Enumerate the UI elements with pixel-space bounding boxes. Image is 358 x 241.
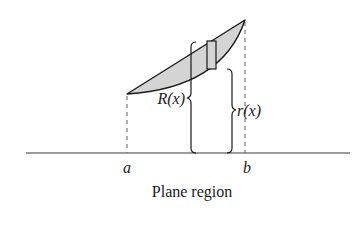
shaded-region [127, 20, 245, 94]
caption: Plane region [152, 183, 232, 201]
plane-region-diagram: R(x) r(x) a b Plane region [0, 0, 358, 241]
representative-rectangle [207, 41, 216, 69]
label-inner-radius: r(x) [237, 102, 261, 120]
label-outer-radius: R(x) [156, 90, 185, 108]
label-b: b [243, 159, 251, 176]
label-a: a [123, 159, 131, 176]
brace-inner-radius [227, 69, 236, 153]
